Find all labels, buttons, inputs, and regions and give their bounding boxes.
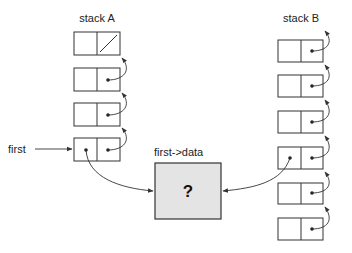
stacks-diagram: stack A first first->data ? stack B (0, 0, 352, 253)
stack-b-label: stack B (283, 12, 319, 24)
first-label: first (8, 143, 26, 155)
null-link-slash-icon (100, 35, 117, 52)
first-data-label: first->data (154, 146, 204, 158)
stack-a-label: stack A (79, 12, 115, 24)
data-value: ? (183, 182, 193, 201)
stack-b-nodes (278, 40, 323, 240)
stack-a-node-1 (74, 32, 120, 55)
stack-b-node-5 (278, 183, 323, 204)
stack-b-data-arrow (223, 158, 290, 191)
stack-b-links (310, 31, 329, 231)
